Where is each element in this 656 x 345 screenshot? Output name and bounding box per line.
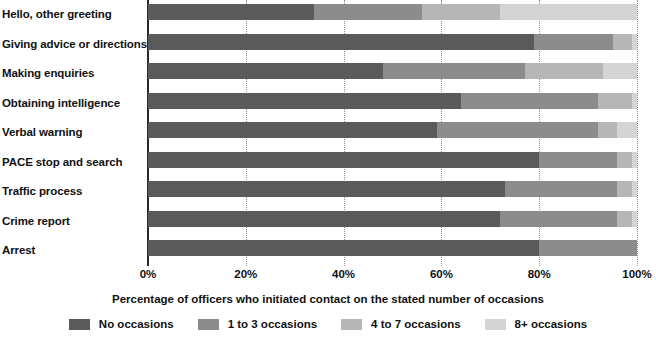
bar-segment [148, 34, 534, 50]
bar-segment [525, 63, 603, 79]
bar-segment [632, 152, 637, 168]
legend-label: 8+ occasions [515, 318, 588, 330]
stacked-bar-chart: Hello, other greetingGiving advice or di… [0, 0, 656, 345]
legend-label: 4 to 7 occasions [371, 318, 460, 330]
category-label: Hello, other greeting [2, 0, 142, 30]
bar-segment [148, 211, 500, 227]
bar-segment [461, 93, 598, 109]
stacked-bar [148, 34, 637, 50]
bar-segment [148, 181, 505, 197]
bar-segment [148, 4, 314, 20]
stacked-bar [148, 181, 637, 197]
plot-area: Hello, other greetingGiving advice or di… [0, 0, 656, 270]
bar-segment [148, 93, 461, 109]
bar-segment [500, 211, 617, 227]
legend-swatch-icon [341, 319, 362, 330]
x-axis: 0%20%40%60%80%100% [148, 266, 637, 286]
bar-segment [314, 4, 422, 20]
x-tick-label: 20% [234, 268, 257, 280]
bar-segment [632, 93, 637, 109]
stacked-bar [148, 122, 637, 138]
bar-segment [632, 34, 637, 50]
bar-row: Making enquiries [0, 59, 656, 89]
bar-segment [632, 211, 637, 227]
bar-row: Hello, other greeting [0, 0, 656, 30]
category-label: Arrest [2, 236, 142, 266]
category-label: Giving advice or directions [2, 30, 142, 60]
legend-swatch-icon [198, 319, 219, 330]
legend-item[interactable]: 1 to 3 occasions [198, 318, 317, 330]
bar-row: Traffic process [0, 177, 656, 207]
bar-segment [383, 63, 525, 79]
bar-row: PACE stop and search [0, 148, 656, 178]
legend-swatch-icon [69, 319, 90, 330]
category-label: Verbal warning [2, 118, 142, 148]
x-tick-label: 80% [528, 268, 551, 280]
category-label: Crime report [2, 207, 142, 237]
bar-row: Verbal warning [0, 118, 656, 148]
bar-rows: Hello, other greetingGiving advice or di… [0, 0, 656, 266]
bar-segment [613, 34, 633, 50]
category-label: Obtaining intelligence [2, 89, 142, 119]
legend-item[interactable]: No occasions [69, 318, 174, 330]
stacked-bar [148, 240, 637, 256]
bar-segment [632, 181, 637, 197]
bar-segment [505, 181, 617, 197]
bar-segment [148, 152, 539, 168]
x-tick-label: 60% [430, 268, 453, 280]
bar-segment [437, 122, 598, 138]
x-tick-label: 0% [140, 268, 157, 280]
x-tick-label: 40% [332, 268, 355, 280]
bar-segment [617, 181, 632, 197]
chart-legend: No occasions1 to 3 occasions4 to 7 occas… [0, 318, 656, 330]
bar-segment [617, 211, 632, 227]
bar-segment [500, 4, 637, 20]
bar-segment [534, 34, 612, 50]
category-label: Traffic process [2, 177, 142, 207]
bar-segment [539, 152, 617, 168]
bar-row: Giving advice or directions [0, 30, 656, 60]
legend-item[interactable]: 8+ occasions [485, 318, 588, 330]
stacked-bar [148, 4, 637, 20]
bar-row: Obtaining intelligence [0, 89, 656, 119]
stacked-bar [148, 152, 637, 168]
stacked-bar [148, 93, 637, 109]
bar-segment [603, 63, 637, 79]
bar-segment [617, 122, 637, 138]
bar-row: Arrest [0, 236, 656, 266]
bar-segment [148, 122, 437, 138]
bar-segment [617, 152, 632, 168]
legend-label: No occasions [99, 318, 174, 330]
stacked-bar [148, 63, 637, 79]
legend-label: 1 to 3 occasions [228, 318, 317, 330]
x-tick-label: 100% [622, 268, 651, 280]
legend-item[interactable]: 4 to 7 occasions [341, 318, 460, 330]
bar-segment [422, 4, 500, 20]
bar-row: Crime report [0, 207, 656, 237]
bar-segment [148, 63, 383, 79]
x-axis-title: Percentage of officers who initiated con… [0, 293, 656, 305]
bar-segment [598, 122, 618, 138]
legend-swatch-icon [485, 319, 506, 330]
bar-segment [539, 240, 637, 256]
bar-segment [598, 93, 632, 109]
bar-segment [148, 240, 539, 256]
category-label: Making enquiries [2, 59, 142, 89]
category-label: PACE stop and search [2, 148, 142, 178]
stacked-bar [148, 211, 637, 227]
